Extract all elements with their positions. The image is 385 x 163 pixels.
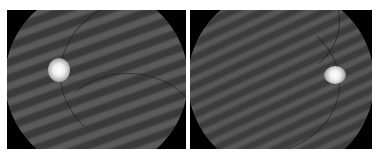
fundus-circle-right <box>190 10 372 149</box>
fundus-image-right <box>190 10 372 149</box>
optic-disc-right <box>324 66 346 84</box>
optic-disc-left <box>48 58 70 82</box>
fundus-circle-left <box>7 10 186 149</box>
fundus-image-left <box>7 10 186 149</box>
